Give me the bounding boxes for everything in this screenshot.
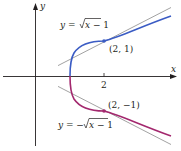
parabola-tangent-diagram: y x 2 (2, 1) (2, −1) y = x − 1 y = − x −… (0, 0, 181, 151)
point-2-1 (102, 39, 106, 43)
x-axis-arrow-icon (170, 74, 177, 79)
equation-lower-prefix: y = − (57, 120, 84, 130)
tangent-line-lower (58, 86, 171, 144)
point-label-2-neg1: (2, −1) (108, 100, 140, 110)
point-label-2-1: (2, 1) (109, 44, 133, 54)
equation-upper-prefix: y = (59, 20, 76, 30)
equation-upper: y = x − 1 (59, 19, 109, 31)
equation-lower: y = − x − 1 (57, 119, 113, 131)
point-2-neg1 (102, 109, 106, 113)
x-tick-label-2: 2 (101, 80, 107, 90)
tangent-line-upper (58, 8, 171, 66)
y-axis-arrow-icon (33, 3, 38, 10)
x-axis-label: x (171, 64, 176, 74)
equation-lower-radicand: x − 1 (89, 120, 113, 130)
equation-upper-radicand: x − 1 (85, 20, 109, 30)
y-axis-label: y (39, 1, 46, 11)
